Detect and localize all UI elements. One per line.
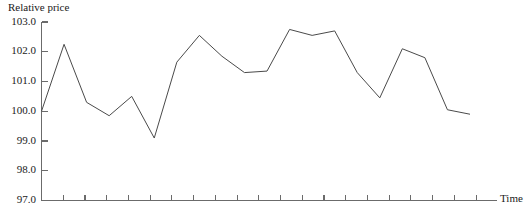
y-tick-label: 98.0 <box>17 163 37 175</box>
y-tick-label: 102.0 <box>11 44 36 56</box>
y-tick-label: 101.0 <box>11 74 36 86</box>
y-tick-label: 103.0 <box>11 15 36 27</box>
y-tick-label: 97.0 <box>17 193 37 205</box>
x-tick-mark-group <box>63 195 476 201</box>
y-tick-label-group: 103.0102.0101.0100.099.098.097.0 <box>11 15 36 206</box>
relative-price-line-chart: Relative price Time 103.0102.0101.0100.0… <box>0 0 527 208</box>
y-tick-label: 100.0 <box>11 104 36 116</box>
plot-area: 103.0102.0101.0100.099.098.097.0 <box>0 0 527 208</box>
price-series-line <box>42 29 471 138</box>
y-tick-mark-group <box>42 22 48 201</box>
y-tick-label: 99.0 <box>17 134 37 146</box>
